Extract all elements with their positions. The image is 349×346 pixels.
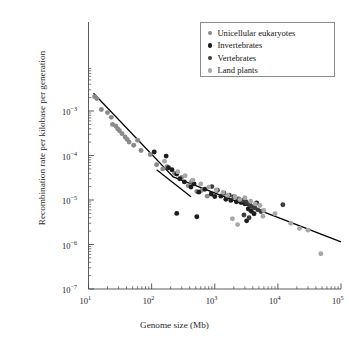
y-axis-label: Recombination rate per kilobase per gene…	[37, 13, 47, 263]
data-point	[160, 166, 165, 171]
figure-container: Recombination rate per kilobase per gene…	[0, 0, 349, 346]
data-point	[230, 216, 235, 221]
data-point	[131, 143, 136, 148]
data-point	[154, 162, 159, 167]
data-point	[182, 179, 187, 184]
data-point	[190, 178, 195, 183]
legend-label-land-plants: Land plants	[217, 64, 257, 76]
data-point	[198, 181, 203, 186]
data-point	[99, 107, 104, 112]
data-point	[252, 211, 257, 216]
y-tick-label: 10−6	[62, 239, 77, 251]
legend-marker-vertebrates	[208, 56, 212, 60]
data-point	[164, 154, 169, 159]
data-point	[175, 169, 180, 174]
data-point	[206, 185, 211, 190]
data-point	[177, 176, 182, 181]
data-point	[237, 197, 242, 202]
data-point	[253, 201, 258, 206]
trend-line-main-regression	[94, 93, 342, 242]
legend-box: Unicellular eukaryotes Invertebrates Ver…	[200, 22, 335, 77]
legend-marker-unicellular-eukaryotes	[208, 31, 212, 35]
data-point	[306, 228, 311, 233]
data-point	[273, 211, 278, 216]
data-point	[221, 190, 226, 195]
data-point	[152, 150, 157, 155]
data-point	[135, 138, 140, 143]
x-tick-label: 104	[269, 294, 281, 306]
data-point	[297, 226, 302, 231]
data-point	[127, 140, 132, 145]
x-tick-label: 105	[332, 294, 344, 306]
legend-item-land-plants[interactable]: Land plants	[208, 64, 334, 76]
y-tick-label: 10−4	[62, 150, 77, 162]
data-point	[162, 159, 167, 164]
data-point	[105, 110, 110, 115]
data-point	[94, 96, 99, 101]
legend-item-vertebrates[interactable]: Vertebrates	[208, 52, 334, 64]
data-point	[214, 188, 219, 193]
legend-label-invertebrates: Invertebrates	[217, 39, 262, 51]
data-point	[139, 148, 144, 153]
x-tick-label: 103	[206, 294, 218, 306]
x-tick-label: 101	[80, 294, 92, 306]
legend-marker-land-plants	[208, 68, 212, 72]
data-point	[148, 152, 153, 157]
x-axis-label: Genome size (Mb)	[0, 320, 349, 330]
data-point	[248, 199, 253, 204]
legend-item-unicellular-eukaryotes[interactable]: Unicellular eukaryotes	[208, 27, 334, 39]
data-point	[247, 215, 252, 220]
legend-item-invertebrates[interactable]: Invertebrates	[208, 39, 334, 51]
data-point	[241, 213, 246, 218]
data-point	[280, 202, 285, 207]
y-tick-label: 10−3	[62, 105, 77, 117]
y-tick-label: 10−7	[62, 283, 77, 295]
data-point	[212, 194, 217, 199]
data-point	[170, 167, 175, 172]
data-point	[235, 222, 240, 227]
data-point	[196, 190, 201, 195]
data-point	[174, 211, 179, 216]
x-tick-label: 102	[143, 294, 155, 306]
data-point	[260, 214, 265, 219]
data-point	[242, 195, 247, 200]
data-point	[288, 221, 293, 226]
data-point	[225, 193, 230, 198]
data-point	[183, 173, 188, 178]
legend-label-unicellular-eukaryotes: Unicellular eukaryotes	[217, 27, 295, 39]
data-point	[194, 214, 199, 219]
legend-label-vertebrates: Vertebrates	[217, 52, 256, 64]
data-point	[233, 194, 238, 199]
data-point	[258, 203, 263, 208]
legend-marker-invertebrates	[208, 43, 212, 47]
data-point	[109, 115, 114, 120]
data-point	[261, 208, 266, 213]
data-point	[318, 251, 323, 256]
y-tick-label: 10−5	[62, 194, 77, 206]
